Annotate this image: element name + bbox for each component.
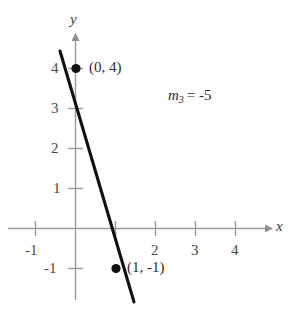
- x-axis-label: x: [276, 219, 283, 234]
- slope-variable: m: [168, 87, 179, 103]
- x-tick-label-4: 4: [231, 243, 239, 258]
- data-point-0-4: [71, 64, 80, 73]
- x-tick-label-3: 3: [191, 243, 199, 258]
- slope-equation: = -5: [187, 87, 212, 103]
- y-tick-label-2: 2: [51, 141, 59, 156]
- x-tick-label-2: 2: [151, 243, 159, 258]
- y-tick-label-3: 3: [51, 101, 59, 116]
- point-label-1-neg1: (1, -1): [127, 260, 165, 275]
- slope-subscript: 3: [179, 94, 184, 105]
- y-axis-label: y: [70, 12, 77, 27]
- slope-annotation: m3 = -5: [168, 88, 212, 105]
- x-tick-label-neg1: -1: [25, 243, 38, 258]
- y-tick-label-neg1: -1: [44, 261, 57, 276]
- graph-figure: x y 4 3 2 1 -1 -1 2 3 4 (0, 4) (1, -1) m…: [0, 0, 306, 310]
- point-label-0-4: (0, 4): [89, 60, 122, 75]
- y-tick-label-1: 1: [53, 181, 61, 196]
- data-point-1-neg1: [111, 264, 120, 273]
- y-tick-label-4: 4: [51, 61, 59, 76]
- plotted-line: [60, 51, 134, 302]
